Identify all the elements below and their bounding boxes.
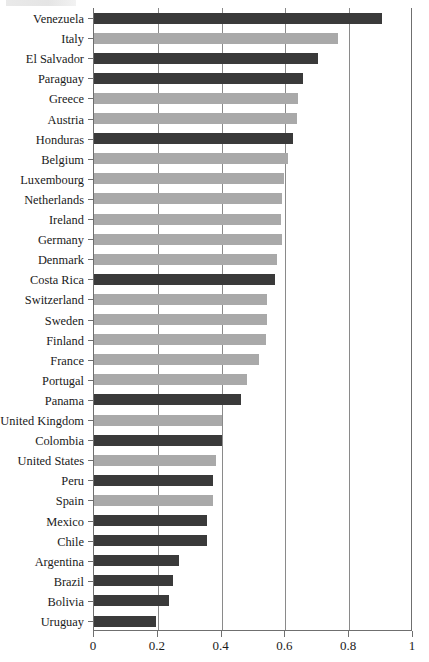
x-label-0.4: 0.4 — [212, 638, 228, 654]
bar-row — [94, 611, 413, 631]
y-tick — [88, 98, 93, 99]
bar-row — [94, 490, 413, 510]
y-label-mexico: Mexico — [46, 516, 84, 528]
y-label-uruguay: Uruguay — [41, 616, 84, 628]
y-tick — [88, 420, 93, 421]
y-label-germany: Germany — [38, 234, 84, 246]
bar-chart: VenezuelaItalyEl SalvadorParaguayGreeceA… — [0, 0, 429, 662]
y-tick — [88, 179, 93, 180]
y-label-paraguay: Paraguay — [38, 73, 84, 85]
y-tick — [88, 621, 93, 622]
y-label-france: France — [50, 355, 84, 367]
y-tick — [88, 78, 93, 79]
y-label-el-salvador: El Salvador — [26, 53, 84, 65]
bar-paraguay — [94, 73, 303, 84]
bar-portugal — [94, 374, 247, 385]
y-tick — [88, 139, 93, 140]
bar-row — [94, 410, 413, 430]
bar-austria — [94, 113, 297, 124]
x-label-0.6: 0.6 — [276, 638, 292, 654]
bar-row — [94, 430, 413, 450]
y-tick — [88, 299, 93, 300]
bar-costa-rica — [94, 274, 275, 285]
y-tick — [88, 460, 93, 461]
y-label-switzerland: Switzerland — [25, 294, 84, 306]
bar-row — [94, 350, 413, 370]
bar-switzerland — [94, 294, 267, 305]
bar-venezuela — [94, 13, 382, 24]
bar-row — [94, 189, 413, 209]
y-label-panama: Panama — [45, 395, 84, 407]
x-tick-0.8 — [348, 631, 349, 637]
y-tick — [88, 239, 93, 240]
y-tick — [88, 380, 93, 381]
bar-peru — [94, 475, 213, 486]
bar-row — [94, 511, 413, 531]
y-label-brazil: Brazil — [54, 576, 84, 588]
y-label-honduras: Honduras — [36, 134, 84, 146]
bar-row — [94, 470, 413, 490]
x-tick-0.2 — [157, 631, 158, 637]
bar-panama — [94, 394, 241, 405]
y-label-luxembourg: Luxembourg — [20, 174, 84, 186]
y-tick — [88, 561, 93, 562]
bar-germany — [94, 234, 282, 245]
x-label-0.2: 0.2 — [149, 638, 165, 654]
bar-row — [94, 390, 413, 410]
bar-row — [94, 28, 413, 48]
bar-row — [94, 450, 413, 470]
y-label-greece: Greece — [49, 93, 84, 105]
y-tick — [88, 340, 93, 341]
bar-rows — [94, 8, 411, 630]
bar-row — [94, 289, 413, 309]
bar-row — [94, 88, 413, 108]
y-label-sweden: Sweden — [45, 315, 84, 327]
bar-finland — [94, 334, 266, 345]
x-label-0: 0 — [90, 638, 97, 654]
plot-area — [93, 8, 412, 631]
bar-row — [94, 209, 413, 229]
y-label-portugal: Portugal — [42, 375, 84, 387]
bar-bolivia — [94, 595, 169, 606]
bar-ireland — [94, 214, 281, 225]
y-label-united-states: United States — [18, 455, 84, 467]
bar-el-salvador — [94, 53, 318, 64]
y-tick — [88, 541, 93, 542]
bar-row — [94, 229, 413, 249]
y-label-spain: Spain — [56, 495, 84, 507]
bar-sweden — [94, 314, 267, 325]
bar-row — [94, 269, 413, 289]
bar-luxembourg — [94, 173, 284, 184]
bar-row — [94, 330, 413, 350]
bar-row — [94, 310, 413, 330]
y-label-belgium: Belgium — [41, 154, 84, 166]
x-label-0.8: 0.8 — [340, 638, 356, 654]
bar-united-kingdom — [94, 415, 222, 426]
bar-row — [94, 48, 413, 68]
bar-uruguay — [94, 616, 156, 627]
y-label-netherlands: Netherlands — [24, 194, 84, 206]
y-label-united-kingdom: United Kingdom — [0, 415, 84, 427]
x-tick-0 — [93, 631, 94, 637]
bar-brazil — [94, 575, 173, 586]
x-tick-1 — [412, 631, 413, 637]
bar-colombia — [94, 435, 222, 446]
y-tick — [88, 18, 93, 19]
bar-italy — [94, 33, 338, 44]
bar-greece — [94, 93, 298, 104]
y-tick — [88, 440, 93, 441]
y-tick — [88, 480, 93, 481]
y-label-italy: Italy — [61, 33, 84, 45]
x-tick-0.4 — [221, 631, 222, 637]
x-label-1: 1 — [409, 638, 416, 654]
y-label-denmark: Denmark — [38, 254, 84, 266]
bar-honduras — [94, 133, 293, 144]
bar-row — [94, 169, 413, 189]
bar-row — [94, 531, 413, 551]
y-label-finland: Finland — [46, 335, 84, 347]
y-label-chile: Chile — [57, 536, 84, 548]
bar-united-states — [94, 455, 216, 466]
bar-row — [94, 591, 413, 611]
x-tick-0.6 — [284, 631, 285, 637]
y-label-venezuela: Venezuela — [33, 13, 84, 25]
